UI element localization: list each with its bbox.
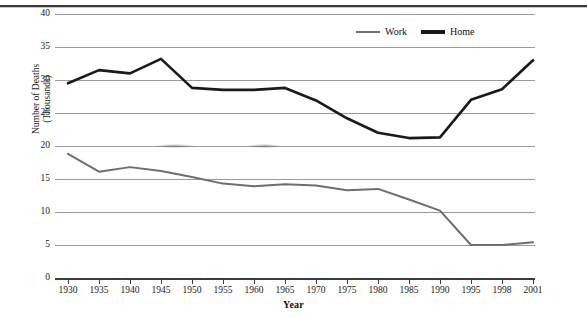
chart-figure: Work Home Number of Deaths (Thousands) 0… bbox=[0, 0, 587, 318]
x-axis-tick-label: 1965 bbox=[276, 286, 295, 296]
x-axis-tick bbox=[99, 278, 100, 284]
scan-artifact bbox=[247, 144, 281, 148]
y-axis-tick-label: 35 bbox=[41, 42, 51, 52]
y-axis-tick-label: 15 bbox=[41, 174, 51, 184]
x-axis-tick bbox=[409, 278, 410, 284]
x-axis-tick bbox=[161, 278, 162, 284]
y-axis-tick-label: 0 bbox=[45, 273, 50, 283]
x-axis-tick bbox=[316, 278, 317, 284]
y-axis-tick-label: 30 bbox=[41, 75, 51, 85]
x-axis-tick-label: 1935 bbox=[90, 286, 109, 296]
series-line-work bbox=[68, 154, 533, 245]
x-axis-tick bbox=[471, 278, 472, 284]
x-axis-tick-label: 1990 bbox=[431, 286, 450, 296]
y-axis-tick-label: 20 bbox=[41, 141, 51, 151]
x-axis-tick-label: 1998 bbox=[493, 286, 512, 296]
y-axis-tick-label: 10 bbox=[41, 207, 51, 217]
x-axis-tick-label: 1960 bbox=[245, 286, 264, 296]
series-lines bbox=[55, 14, 535, 278]
y-axis-tick-label: 5 bbox=[45, 240, 50, 250]
x-axis-title: Year bbox=[0, 299, 587, 310]
x-axis-line bbox=[55, 278, 535, 280]
top-rule-divider bbox=[0, 5, 587, 7]
x-axis-tick bbox=[440, 278, 441, 284]
x-axis-tick-label: 1945 bbox=[152, 286, 171, 296]
x-axis-tick-label: 1980 bbox=[369, 286, 388, 296]
x-axis-tick bbox=[223, 278, 224, 284]
y-axis-tick-label: 40 bbox=[41, 9, 51, 19]
x-axis-tick bbox=[68, 278, 69, 284]
x-axis-tick-label: 1940 bbox=[121, 286, 140, 296]
x-axis-tick-label: 1970 bbox=[307, 286, 326, 296]
series-line-home bbox=[68, 59, 533, 138]
x-axis-tick-label: 1950 bbox=[183, 286, 202, 296]
scan-artifact bbox=[155, 144, 195, 148]
x-axis-tick-label: 1930 bbox=[59, 286, 78, 296]
x-axis-tick bbox=[192, 278, 193, 284]
x-axis-tick bbox=[285, 278, 286, 284]
x-axis-tick-label: 1985 bbox=[400, 286, 419, 296]
x-axis-tick-label: 2001 bbox=[524, 286, 543, 296]
x-axis-tick bbox=[533, 278, 534, 284]
x-axis-tick-label: 1995 bbox=[462, 286, 481, 296]
x-axis-tick-label: 1955 bbox=[214, 286, 233, 296]
x-axis-tick bbox=[254, 278, 255, 284]
x-axis-tick bbox=[502, 278, 503, 284]
y-axis-tick-label: 25 bbox=[41, 108, 51, 118]
x-axis-tick-label: 1975 bbox=[338, 286, 357, 296]
x-axis-tick bbox=[130, 278, 131, 284]
x-axis-tick bbox=[347, 278, 348, 284]
x-axis-tick bbox=[378, 278, 379, 284]
plot-area: 0510152025303540 bbox=[55, 14, 535, 278]
